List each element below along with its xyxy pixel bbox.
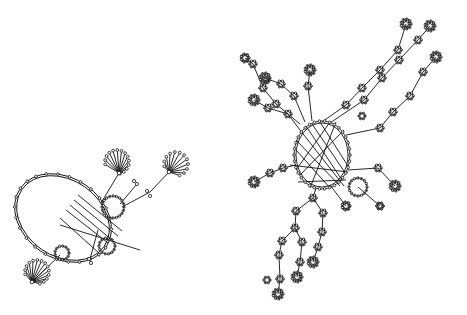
leaf-node (183, 172, 186, 175)
branch-edge (308, 86, 312, 121)
node (87, 257, 90, 260)
node-cluster (358, 112, 366, 120)
node (308, 184, 311, 187)
leaf-node (127, 164, 130, 167)
cross-edge (296, 122, 330, 170)
hub-node (30, 280, 34, 284)
leaf-node (173, 151, 176, 154)
leaf-node (48, 269, 51, 272)
right-graph-component (240, 18, 442, 300)
leaf-node (178, 174, 181, 177)
node (297, 172, 300, 175)
leaf-node (108, 151, 111, 154)
left-branch (250, 164, 296, 186)
leaf-node (183, 154, 186, 157)
node (348, 160, 351, 163)
node (347, 166, 350, 169)
upper-right-branch-1 (322, 20, 410, 122)
node (313, 121, 316, 124)
leaf-node (105, 155, 108, 158)
leaf-node (104, 163, 107, 166)
node-cluster (263, 276, 271, 284)
right-branch (348, 164, 399, 190)
leaf-node (42, 280, 45, 283)
node (323, 120, 326, 123)
leaf-node (178, 151, 181, 154)
leaf-node (165, 155, 168, 158)
node (313, 186, 316, 189)
node (304, 127, 307, 130)
hub-node (167, 170, 171, 174)
leaf-node (44, 262, 47, 265)
node (148, 194, 151, 197)
leaf-node (32, 259, 35, 262)
leaf-node (28, 261, 31, 264)
node (333, 123, 336, 126)
left-graph-component (0, 149, 189, 285)
node (67, 260, 71, 264)
star-cluster (24, 259, 51, 285)
node (349, 154, 352, 157)
leaf-node (47, 274, 50, 277)
node (297, 136, 300, 139)
node (345, 172, 348, 175)
leaf-node (46, 265, 49, 268)
leaf-node (169, 152, 172, 155)
lower-right-branch (330, 185, 350, 210)
node (135, 182, 138, 185)
node (318, 188, 321, 191)
leaf-node (36, 259, 39, 262)
node (132, 179, 135, 182)
edge (78, 195, 122, 231)
leaf-node (25, 265, 28, 268)
node-cluster (101, 195, 125, 219)
node (345, 136, 348, 139)
edge (122, 192, 150, 207)
right-branch-2 (358, 187, 384, 210)
node (328, 121, 331, 124)
node (293, 154, 296, 157)
hub-node (117, 171, 121, 175)
leaf-node (163, 160, 166, 163)
edge (101, 173, 119, 203)
node (341, 131, 344, 134)
upper-right-branch-3 (346, 53, 440, 135)
node (308, 123, 311, 126)
cross-edge (300, 130, 344, 175)
leaf-node (45, 277, 48, 280)
leaf-node (126, 155, 129, 158)
leaf-node (104, 159, 107, 162)
node (318, 120, 321, 123)
cross-edge (320, 122, 348, 166)
node (78, 260, 82, 264)
star-cluster (163, 151, 190, 177)
network-diagram (0, 0, 467, 315)
leaf-node (116, 149, 119, 152)
branch-edge (322, 105, 346, 122)
node (304, 181, 307, 184)
leaf-node (24, 269, 27, 272)
leaf-node (163, 165, 166, 168)
node (300, 131, 303, 134)
leaf-node (122, 170, 125, 173)
leaf-node (187, 163, 190, 166)
node (293, 160, 296, 163)
leaf-node (112, 149, 115, 152)
leaf-node (120, 149, 123, 152)
node (347, 141, 350, 144)
node (145, 189, 148, 192)
leaf-node (125, 167, 128, 170)
node (295, 141, 298, 144)
node (300, 177, 303, 180)
leaf-node (128, 159, 131, 162)
node (293, 147, 296, 150)
leaf-node (186, 168, 189, 171)
node (348, 147, 351, 150)
node (323, 188, 326, 191)
node (295, 166, 298, 169)
leaf-node (186, 158, 189, 161)
node (338, 181, 341, 184)
node (333, 184, 336, 187)
leaf-node (124, 152, 127, 155)
node (338, 127, 341, 130)
